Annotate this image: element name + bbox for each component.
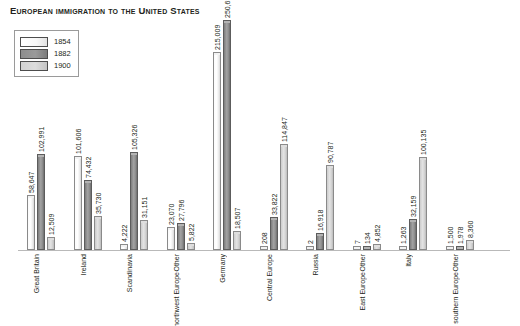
bar-1854[interactable] bbox=[399, 248, 407, 250]
bar-top-face bbox=[280, 144, 288, 147]
bar-group: 71344,852 bbox=[352, 246, 382, 250]
category-label: Great Britain bbox=[33, 254, 47, 293]
bar-top-face bbox=[37, 154, 45, 157]
bar-top-face bbox=[466, 240, 474, 243]
bar-slot: 208 bbox=[260, 248, 268, 250]
bar-1900[interactable] bbox=[94, 218, 102, 251]
category-label: Othernorthwest Europe bbox=[173, 254, 187, 326]
bar-top-face bbox=[27, 195, 35, 198]
bar-top-face bbox=[130, 152, 138, 155]
axis-baseline bbox=[18, 250, 510, 251]
bar-slot: 31,151 bbox=[140, 222, 148, 250]
bar-slot: 8,360 bbox=[466, 242, 474, 250]
bar-group: 216,91890,787 bbox=[305, 167, 335, 250]
bar-1882[interactable] bbox=[316, 235, 324, 250]
bar-1900[interactable] bbox=[466, 242, 474, 250]
bar-top-face bbox=[84, 180, 92, 183]
bar-1882[interactable] bbox=[270, 219, 278, 250]
category-label: Central Europe bbox=[266, 254, 280, 301]
bar-1854[interactable] bbox=[306, 248, 314, 250]
bar-slot: 105,326 bbox=[130, 154, 138, 250]
bar-group: 1,5001,9788,360 bbox=[445, 242, 475, 250]
bar-1900[interactable] bbox=[326, 167, 334, 250]
bar-top-face bbox=[187, 243, 195, 246]
bar-top-face bbox=[260, 246, 268, 249]
bar-slot: 18,507 bbox=[233, 233, 241, 250]
bar-value-label: 1,500 bbox=[443, 235, 450, 253]
bar-1882[interactable] bbox=[456, 248, 464, 250]
bar-top-face bbox=[270, 217, 278, 220]
bar-slot: 100,135 bbox=[419, 159, 427, 250]
bar-1900[interactable] bbox=[187, 245, 195, 250]
bar-value-label: 1,978 bbox=[453, 235, 460, 253]
bar-1900[interactable] bbox=[419, 159, 427, 250]
bar-1900[interactable] bbox=[373, 246, 381, 250]
bar-slot: 215,009 bbox=[213, 54, 221, 250]
bar-group: 215,009250,63018,507 bbox=[212, 22, 242, 250]
bar-slot: 90,787 bbox=[326, 167, 334, 250]
bar-top-face bbox=[120, 244, 128, 247]
bar-slot: 4,222 bbox=[120, 246, 128, 250]
bar-slot: 23,070 bbox=[167, 229, 175, 250]
bar-group: 23,07027,7965,822 bbox=[166, 225, 196, 250]
bar-top-face bbox=[177, 223, 185, 226]
bar-top-face bbox=[213, 52, 221, 55]
bar-slot: 2 bbox=[306, 248, 314, 250]
bar-top-face bbox=[94, 216, 102, 219]
category-label: Othersouthern Europe bbox=[452, 254, 466, 323]
bar-group: 101,60674,43235,730 bbox=[73, 158, 103, 250]
bar-slot: 33,822 bbox=[270, 219, 278, 250]
bar-1900[interactable] bbox=[140, 222, 148, 250]
bar-slot: 1,263 bbox=[399, 248, 407, 250]
bar-top-face bbox=[233, 231, 241, 234]
bar-1854[interactable] bbox=[260, 248, 268, 250]
bar-slot: 16,918 bbox=[316, 235, 324, 250]
bar-slot: 1,978 bbox=[456, 248, 464, 250]
bar-top-face bbox=[326, 165, 334, 168]
bar-slot: 114,847 bbox=[280, 146, 288, 250]
bar-top-face bbox=[316, 233, 324, 236]
bar-1854[interactable] bbox=[213, 54, 221, 250]
bar-1854[interactable] bbox=[27, 197, 35, 250]
bar-group: 58,647102,99112,509 bbox=[26, 156, 56, 250]
bar-1882[interactable] bbox=[130, 154, 138, 250]
bar-1854[interactable] bbox=[167, 229, 175, 250]
bar-top-face bbox=[409, 219, 417, 222]
bar-group: 20833,822114,847 bbox=[259, 146, 289, 250]
category-label: OtherEast Europe bbox=[359, 254, 373, 310]
bar-top-face bbox=[140, 220, 148, 223]
bar-group: 4,222105,32631,151 bbox=[119, 154, 149, 250]
bar-slot: 250,630 bbox=[223, 22, 231, 250]
bar-top-face bbox=[306, 246, 314, 249]
category-label: Ireland bbox=[80, 254, 94, 275]
bar-value-label: 1,263 bbox=[396, 235, 403, 253]
category-label: Scandinavia bbox=[126, 254, 140, 292]
bar-top-face bbox=[399, 246, 407, 249]
bar-slot: 32,159 bbox=[409, 221, 417, 250]
bar-1900[interactable] bbox=[47, 239, 55, 250]
category-label: Germany bbox=[219, 254, 233, 283]
bar-top-face bbox=[223, 20, 231, 23]
bar-slot: 35,730 bbox=[94, 218, 102, 251]
bar-group: 1,26332,159100,135 bbox=[398, 159, 428, 250]
bar-1900[interactable] bbox=[280, 146, 288, 250]
bar-slot: 5,822 bbox=[187, 245, 195, 250]
bar-1882[interactable] bbox=[223, 22, 231, 250]
bar-slot: 12,509 bbox=[47, 239, 55, 250]
bar-1882[interactable] bbox=[409, 221, 417, 250]
bar-top-face bbox=[419, 157, 427, 160]
bar-top-face bbox=[74, 156, 82, 159]
bar-top-face bbox=[47, 237, 55, 240]
bar-slot: 58,647 bbox=[27, 197, 35, 250]
bar-slot: 4,852 bbox=[373, 246, 381, 250]
bar-1854[interactable] bbox=[120, 246, 128, 250]
category-label: Russia bbox=[312, 254, 326, 275]
bar-1900[interactable] bbox=[233, 233, 241, 250]
category-label: Italy bbox=[405, 254, 419, 267]
bar-top-face bbox=[373, 244, 381, 247]
